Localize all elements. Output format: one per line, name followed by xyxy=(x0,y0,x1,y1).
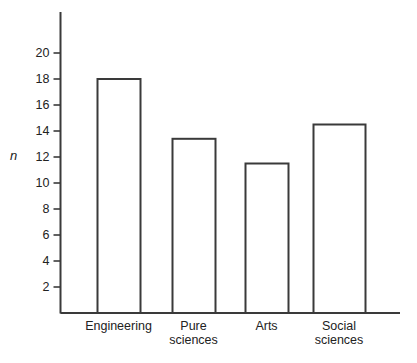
bars-group xyxy=(98,79,366,313)
bar xyxy=(173,139,216,313)
x-axis-category-label: Social sciences xyxy=(289,320,389,347)
chart-plot-area xyxy=(0,0,417,363)
bar xyxy=(314,125,366,314)
y-axis-tick-label: 12 xyxy=(24,151,50,164)
y-axis-tick-label: 14 xyxy=(24,125,50,138)
y-axis-tick-label: 6 xyxy=(24,229,50,242)
y-axis-tick-label: 20 xyxy=(24,47,50,60)
bar-chart: n 2018161412108642 EngineeringPure scien… xyxy=(0,0,417,363)
y-axis-tick-label: 4 xyxy=(24,255,50,268)
bar xyxy=(246,164,289,314)
y-axis-tick-label: 18 xyxy=(24,73,50,86)
y-axis-tick-label: 2 xyxy=(24,281,50,294)
y-axis-tick-label: 16 xyxy=(24,99,50,112)
y-axis-tick-label: 8 xyxy=(24,203,50,216)
bar xyxy=(98,79,141,313)
y-axis-tick-marks xyxy=(54,53,61,287)
y-axis-tick-label: 10 xyxy=(24,177,50,190)
